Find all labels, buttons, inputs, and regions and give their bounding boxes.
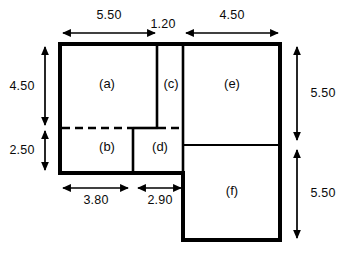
room-label-e: (e) bbox=[209, 76, 255, 91]
dimension-label-left-4-50: 4.50 bbox=[3, 79, 41, 93]
floor-plan-figure: (a) (b) (c) (d) (e) (f) 5.50 1.20 4.50 4… bbox=[0, 0, 345, 254]
dimension-label-left-2-50: 2.50 bbox=[3, 143, 41, 157]
dimension-label-top-4-50: 4.50 bbox=[202, 8, 262, 22]
dimension-label-bottom-2-90: 2.90 bbox=[134, 193, 186, 207]
dimension-label-top-1-20: 1.20 bbox=[142, 17, 184, 31]
room-label-c: (c) bbox=[159, 76, 183, 91]
dimension-label-right-5-50-upper: 5.50 bbox=[304, 86, 342, 100]
room-label-a: (a) bbox=[84, 76, 130, 91]
room-label-b: (b) bbox=[84, 139, 130, 154]
dimension-label-top-5-50: 5.50 bbox=[79, 8, 139, 22]
room-label-d: (d) bbox=[140, 139, 180, 154]
dimension-label-right-5-50-lower: 5.50 bbox=[304, 186, 342, 200]
dimension-label-bottom-3-80: 3.80 bbox=[70, 193, 122, 207]
floor-plan-drawing bbox=[0, 0, 345, 254]
room-label-f: (f) bbox=[209, 183, 255, 198]
